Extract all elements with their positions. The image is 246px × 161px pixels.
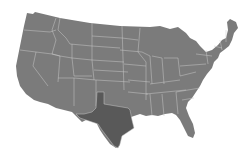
us-map	[0, 0, 246, 161]
